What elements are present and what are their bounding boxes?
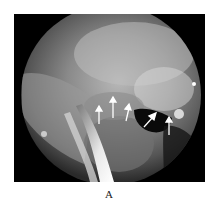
endoscopic-image-graphic [14,14,205,182]
endoscopic-image [14,14,205,182]
panel-label: A [0,188,218,200]
